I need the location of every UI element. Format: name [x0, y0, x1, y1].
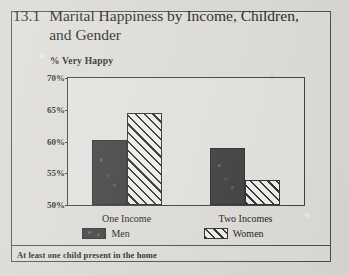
bar-men-one-income [92, 140, 127, 205]
legend-item-men[interactable]: Men [82, 228, 129, 239]
bar-group-two-incomes [210, 78, 280, 205]
legend-item-women[interactable]: Women [204, 228, 264, 239]
legend-swatch-women [204, 228, 228, 239]
y-axis-tick-mark [65, 78, 68, 79]
y-axis-label: % Very Happy [50, 56, 113, 66]
legend-label-men: Men [111, 228, 129, 239]
figure-title-block: 13.1 Marital Happiness by Income, Childr… [13, 6, 303, 44]
y-axis-tick-mark [65, 173, 68, 174]
y-axis-tick-70%: 70% [47, 73, 65, 83]
y-axis-tick-65%: 65% [47, 105, 65, 115]
figure-number: 13.1 [13, 6, 40, 25]
x-axis-tick-labels: One IncomeTwo Incomes [67, 213, 305, 224]
bar-men-two-incomes [210, 148, 245, 205]
figure-screenshot: 13.1 Marital Happiness by Income, Childr… [0, 0, 349, 276]
bar-group-one-income [92, 78, 162, 205]
footnote-divider [11, 245, 331, 246]
figure-footnote: At least one child present in the home [17, 250, 157, 260]
y-axis-tick-mark [65, 205, 68, 206]
legend-label-women: Women [233, 228, 264, 239]
y-axis-tick-50%: 50% [47, 200, 65, 210]
page-title: Marital Happiness by Income, Children, a… [49, 6, 303, 44]
legend-swatch-men [82, 228, 106, 239]
chart-plot-area: 50%55%60%65%70% [67, 77, 305, 206]
x-axis-label-one-income: One Income [92, 213, 162, 224]
x-axis-label-two-incomes: Two Incomes [211, 213, 281, 224]
y-axis-tick-60%: 60% [47, 137, 65, 147]
y-axis-tick-55%: 55% [47, 168, 65, 178]
chart-plot-wrapper: 50%55%60%65%70% One IncomeTwo Incomes [39, 72, 307, 212]
y-axis-tick-mark [65, 142, 68, 143]
y-axis-tick-mark [65, 110, 68, 111]
bar-women-two-incomes [245, 180, 280, 205]
chart-bars-layer [68, 78, 304, 205]
bar-women-one-income [127, 113, 162, 205]
chart-legend: MenWomen [39, 228, 307, 239]
